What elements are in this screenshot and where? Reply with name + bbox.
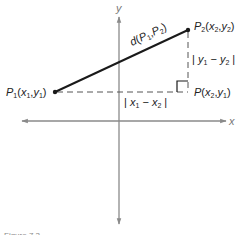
point-p2-label: P2(x2,y2) (194, 20, 234, 33)
point-p2-dot (186, 28, 190, 32)
hypotenuse-label: d(P1,P2) (128, 20, 169, 48)
point-p1-label: P1(x1,y1) (6, 86, 46, 99)
point-p-label: P(x2,y1) (194, 86, 231, 99)
distance-diagram: x y P1(x1,y1) P2(x2,y2) P(x2,y1) d(P1,P2… (0, 0, 248, 235)
x-axis-label: x (228, 115, 235, 127)
y-axis-label: y (115, 2, 123, 14)
horizontal-leg-label: | x1 − x2 | (124, 96, 167, 109)
point-p1-dot (53, 90, 57, 94)
right-angle-marker (177, 81, 188, 92)
vertical-leg-label: | y1 − y2 | (192, 53, 235, 66)
figure-caption: Figure 7.3 (4, 231, 41, 235)
axes: x y (22, 2, 235, 224)
hypotenuse-line (55, 30, 188, 92)
